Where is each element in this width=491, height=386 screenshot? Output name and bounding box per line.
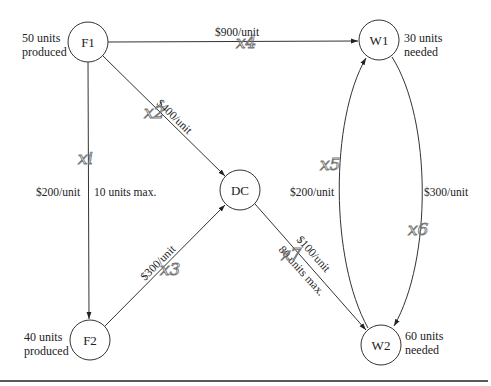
w1-demand-line2: needed [404,45,438,59]
edge-w2-w1 [339,58,368,328]
edge-f1-f2-capacity: 10 units max. [94,186,156,198]
f2-supply-line1: 40 units [24,330,63,344]
network-diagram: F1 F2 DC W1 W2 50 units produced 40 unit… [0,0,491,386]
edge-f1-f2-cost: $200/unit [36,186,81,198]
handwritten-x5: x5 [320,154,340,174]
handwritten-x1: xi [78,148,93,168]
edge-w1-w2-cost: $300/unit [424,186,469,198]
edge-w2-w1-cost: $200/unit [290,186,335,198]
node-f1: F1 [68,22,108,62]
f2-supply-line2: produced [24,344,69,358]
node-dc: DC [220,170,260,210]
f1-supply-line2: produced [22,45,67,59]
handwritten-x7: x7 [281,244,302,264]
node-dc-label: DC [231,183,249,198]
node-w1-label: W1 [370,33,389,48]
edge-f1-w1 [108,41,358,42]
handwritten-x2: x2 [144,102,164,122]
node-f2-label: F2 [83,333,97,348]
edge-dc-w2 [255,204,366,330]
handwritten-x4: x4 [236,32,256,52]
node-f2: F2 [70,320,110,360]
w2-demand-line2: needed [405,343,439,357]
edge-f1-f2 [88,62,89,319]
edge-w1-w2 [392,57,422,326]
handwritten-x6: x6 [408,219,429,239]
node-w2: W2 [361,325,401,365]
w2-demand-line1: 60 units [405,329,444,343]
node-w1: W1 [359,20,399,60]
handwritten-x3: x3 [160,259,180,279]
node-w2-label: W2 [372,338,391,353]
w1-demand-line1: 30 units [404,31,443,45]
node-f1-label: F1 [81,35,95,50]
f1-supply-line1: 50 units [22,31,61,45]
